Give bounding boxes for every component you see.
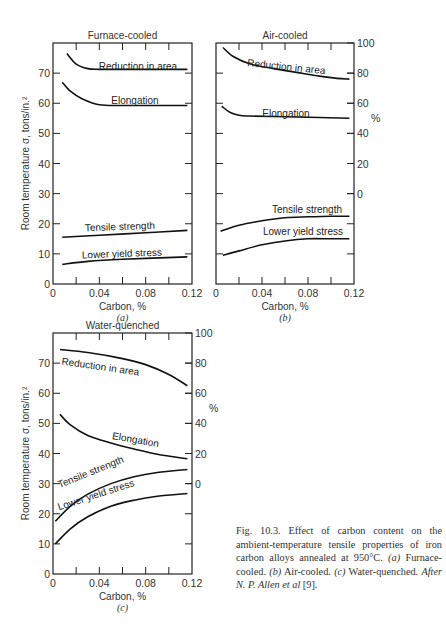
- caption-b-tag: (b): [269, 566, 281, 577]
- x-tick-label: 0.12: [182, 577, 203, 589]
- y-tick-label: 50: [38, 417, 50, 429]
- caption-b-text: Air-cooled.: [284, 566, 331, 577]
- y-tick-label: 30: [38, 188, 50, 200]
- x-axis-label: Carbon, %: [261, 301, 308, 312]
- y2-tick-label: 40: [195, 417, 207, 429]
- chart-title: Furnace-cooled: [88, 30, 157, 41]
- y-tick-label: 10: [38, 538, 50, 550]
- chart-panel-b: 00.040.080.12020406080100%Air-cooledCarb…: [213, 30, 380, 324]
- series-label: Tensile strength: [85, 220, 155, 233]
- x-tick-label: 0.12: [344, 287, 365, 299]
- y2-tick-label: 0: [357, 188, 363, 200]
- y-tick-label: 0: [44, 568, 50, 580]
- y-tick-label: 40: [38, 448, 50, 460]
- chart-title: Air-cooled: [262, 30, 307, 41]
- x-tick-label: 0.12: [182, 287, 203, 299]
- x-tick-label: 0: [213, 287, 219, 299]
- figure-caption: Fig. 10.3. Effect of carbon content on t…: [236, 524, 442, 592]
- x-tick-label: 0: [50, 577, 56, 589]
- x-tick-label: 0.08: [135, 287, 156, 299]
- y-tick-label: 20: [38, 218, 50, 230]
- y2-tick-label: 40: [357, 127, 369, 139]
- series-label: Reduction in area: [247, 57, 327, 76]
- chart-panel-c: 00.040.080.12010203040506070Room tempera…: [20, 320, 218, 614]
- y2-tick-label: 100: [195, 327, 213, 339]
- y2-tick-label: 60: [195, 387, 207, 399]
- y-axis-label: Room temperature σ, tons/in.²: [20, 386, 31, 520]
- panel-sublabel: (b): [279, 312, 291, 324]
- x-tick-label: 0: [50, 287, 56, 299]
- y-tick-label: 10: [38, 248, 50, 260]
- y2-tick-label: 80: [357, 67, 369, 79]
- plot-frame: [216, 43, 354, 284]
- series-label: Elongation: [111, 430, 159, 449]
- chart-title: Water-quenched: [86, 320, 160, 331]
- panel-sublabel: (c): [117, 602, 129, 614]
- x-axis-label: Carbon, %: [99, 591, 146, 602]
- y-tick-label: 70: [38, 67, 50, 79]
- chart-panel-a: 00.040.080.12010203040506070Room tempera…: [20, 30, 202, 324]
- y-tick-label: 60: [38, 387, 50, 399]
- series-label: Reduction in area: [61, 356, 141, 378]
- caption-ref: [9].: [303, 579, 318, 590]
- x-axis-label: Carbon, %: [99, 301, 146, 312]
- y-tick-label: 20: [38, 508, 50, 520]
- y2-tick-label: 60: [357, 97, 369, 109]
- y2-tick-label: 80: [195, 357, 207, 369]
- y2-axis-label: %: [371, 112, 380, 124]
- y-tick-label: 30: [38, 478, 50, 490]
- x-tick-label: 0.04: [89, 287, 110, 299]
- y2-tick-label: 100: [357, 37, 375, 49]
- y-tick-label: 60: [38, 97, 50, 109]
- y-tick-label: 50: [38, 127, 50, 139]
- x-tick-label: 0.04: [252, 287, 273, 299]
- y-tick-label: 70: [38, 357, 50, 369]
- y2-tick-label: 0: [195, 478, 201, 490]
- y2-tick-label: 20: [357, 158, 369, 170]
- x-tick-label: 0.08: [135, 577, 156, 589]
- y-axis-label: Room temperature σ, tons/in.²: [20, 96, 31, 230]
- x-tick-label: 0.08: [298, 287, 319, 299]
- y-tick-label: 0: [44, 278, 50, 290]
- x-tick-label: 0.04: [89, 577, 110, 589]
- y-tick-label: 40: [38, 158, 50, 170]
- series-line: [223, 239, 350, 256]
- y2-tick-label: 20: [195, 448, 207, 460]
- series-label: Reduction in area: [99, 61, 178, 72]
- series-label: Tensile strength: [272, 204, 342, 215]
- caption-c-text: Water-quenched.: [349, 566, 419, 577]
- caption-c-tag: (c): [334, 566, 345, 577]
- series-label: Elongation: [111, 95, 158, 106]
- series-label: Elongation: [262, 108, 309, 119]
- series-label: Lower yield stress: [263, 226, 343, 237]
- y2-axis-label: %: [209, 402, 218, 414]
- caption-a-tag: (a): [388, 552, 400, 563]
